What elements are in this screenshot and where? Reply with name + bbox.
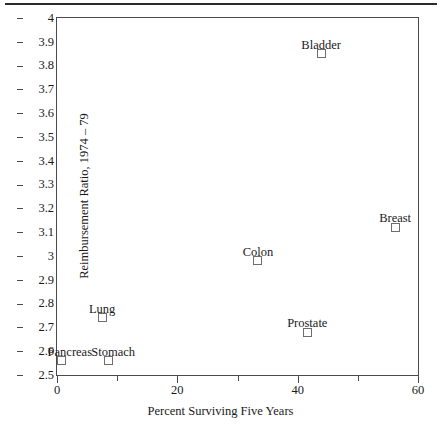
x-tick-mark — [298, 375, 299, 383]
scatter-chart-figure: Reimbursement Ratio, 1974 – 79 43.93.83.… — [0, 0, 441, 426]
y-tick-label: 3.7 — [38, 83, 57, 96]
y-tick-mark — [17, 137, 23, 138]
x-tick-mark — [238, 375, 239, 381]
data-point-label: Stomach — [91, 346, 135, 359]
y-axis-label-container: Reimbursement Ratio, 1974 – 79 — [0, 17, 16, 374]
data-point-label: Colon — [243, 246, 274, 259]
x-tick-label: 40 — [291, 384, 304, 397]
x-tick-label: 20 — [171, 384, 184, 397]
y-tick-label: 3.9 — [38, 35, 57, 48]
y-tick-label: 2.8 — [38, 297, 57, 310]
y-tick-label: 3.8 — [38, 59, 57, 72]
y-tick-mark — [17, 66, 23, 67]
y-tick-label: 2.7 — [38, 321, 57, 334]
y-tick-mark — [17, 351, 23, 352]
y-tick-label: 2.9 — [38, 273, 57, 286]
x-tick-mark — [358, 375, 359, 381]
y-tick-mark — [17, 42, 23, 43]
y-tick-mark — [17, 256, 23, 257]
x-tick-mark — [177, 375, 178, 383]
y-tick-label: 3.3 — [38, 178, 57, 191]
y-tick-label: 3.5 — [38, 130, 57, 143]
top-horizontal-rule — [5, 3, 437, 5]
y-tick-mark — [17, 185, 23, 186]
y-tick-mark — [17, 18, 23, 19]
x-tick-label: 60 — [412, 384, 425, 397]
y-tick-mark — [17, 113, 23, 114]
plot-area: 43.93.83.73.63.53.43.33.23.132.92.82.72.… — [56, 17, 419, 376]
y-tick-mark — [17, 232, 23, 233]
y-tick-label: 2.5 — [38, 368, 57, 381]
data-point-label: Breast — [379, 212, 411, 225]
x-axis-label: Percent Surviving Five Years — [0, 404, 441, 419]
y-tick-mark — [17, 375, 23, 376]
y-tick-mark — [17, 327, 23, 328]
y-tick-label: 3.4 — [38, 154, 57, 167]
y-tick-label: 3 — [48, 249, 57, 262]
y-tick-mark — [17, 280, 23, 281]
y-tick-mark — [17, 89, 23, 90]
x-tick-label: 0 — [54, 384, 60, 397]
y-tick-label: 3.6 — [38, 106, 57, 119]
x-tick-mark — [117, 375, 118, 381]
x-tick-mark — [418, 375, 419, 383]
y-tick-mark — [17, 208, 23, 209]
y-tick-mark — [17, 161, 23, 162]
data-point-label: Bladder — [301, 39, 341, 52]
y-tick-mark — [17, 304, 23, 305]
data-point-label: Pancreas — [48, 346, 92, 359]
data-point-label: Lung — [89, 303, 115, 316]
x-tick-mark — [57, 375, 58, 383]
data-point-label: Prostate — [287, 317, 327, 330]
y-tick-label: 3.1 — [38, 225, 57, 238]
y-tick-label: 4 — [48, 11, 57, 24]
y-tick-label: 3.2 — [38, 202, 57, 215]
